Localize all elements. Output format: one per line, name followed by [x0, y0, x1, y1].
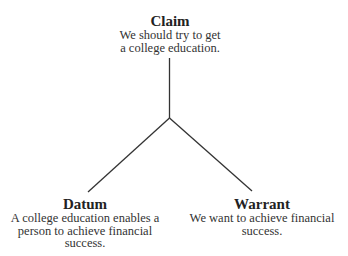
claim-node: Claim We should try to get a college edu… — [100, 14, 240, 54]
claim-text-line1: We should try to get — [100, 29, 240, 42]
warrant-title: Warrant — [182, 197, 342, 212]
datum-title: Datum — [5, 197, 165, 212]
warrant-connector — [170, 118, 253, 191]
warrant-node: Warrant We want to achieve financial suc… — [182, 197, 342, 237]
claim-title: Claim — [100, 14, 240, 29]
datum-text-line1: A college education enables a — [5, 212, 165, 225]
datum-node: Datum A college education enables a pers… — [5, 197, 165, 250]
datum-connector — [88, 118, 170, 192]
datum-text-line3: success. — [5, 237, 165, 250]
warrant-text-line2: success. — [182, 225, 342, 238]
warrant-text-line1: We want to achieve financial — [182, 212, 342, 225]
claim-text-line2: a college education. — [100, 42, 240, 55]
